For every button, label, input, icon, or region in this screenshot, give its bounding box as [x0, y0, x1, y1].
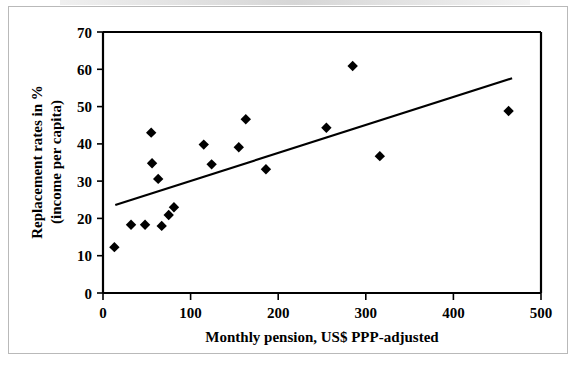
data-point-marker [109, 242, 119, 252]
data-point-marker [321, 123, 331, 133]
plot-frame [103, 32, 541, 293]
y-tick-label-60: 60 [77, 62, 92, 78]
y-axis-title-line1: Replacement rates in % [29, 85, 45, 239]
data-point-marker [147, 158, 157, 168]
trendline-segment [115, 78, 512, 205]
data-point-marker [156, 221, 166, 231]
x-tick-label-500: 500 [530, 305, 553, 321]
scatter-chart: 70 60 50 40 30 20 10 0 0 100 200 300 400… [0, 0, 578, 370]
x-tick-label-200: 200 [267, 305, 290, 321]
x-tick-label-100: 100 [179, 305, 202, 321]
data-point-marker [347, 61, 357, 71]
data-point-marker [234, 142, 244, 152]
data-points [109, 61, 514, 253]
data-point-marker [199, 139, 209, 149]
trendline [115, 78, 512, 205]
chart-svg: 70 60 50 40 30 20 10 0 0 100 200 300 400… [0, 0, 578, 370]
x-tick-label-400: 400 [442, 305, 465, 321]
y-tick-label-0: 0 [85, 286, 93, 302]
data-point-marker [206, 159, 216, 169]
y-axis-title-line2: (income per capita) [48, 100, 65, 224]
data-point-marker [126, 220, 136, 230]
data-point-marker [503, 106, 513, 116]
x-tick-label-300: 300 [355, 305, 378, 321]
data-point-marker [140, 220, 150, 230]
data-point-marker [153, 174, 163, 184]
data-point-marker [261, 164, 271, 174]
data-point-marker [164, 210, 174, 220]
x-tick-label-0: 0 [99, 305, 107, 321]
data-point-marker [375, 151, 385, 161]
x-axis-title: Monthly pension, US$ PPP-adjusted [205, 329, 439, 345]
data-point-marker [241, 114, 251, 124]
y-tick-label-10: 10 [77, 248, 92, 264]
figure-screenshot: 70 60 50 40 30 20 10 0 0 100 200 300 400… [0, 0, 578, 370]
y-tick-label-20: 20 [77, 211, 92, 227]
y-tick-label-50: 50 [77, 99, 92, 115]
data-point-marker [169, 202, 179, 212]
y-tick-label-70: 70 [77, 25, 92, 41]
y-tick-label-40: 40 [77, 136, 92, 152]
y-tick-label-30: 30 [77, 174, 92, 190]
data-point-marker [146, 127, 156, 137]
